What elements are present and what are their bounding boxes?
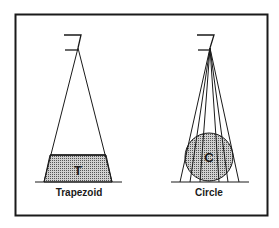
circle-letter: C [204, 150, 214, 165]
trapezoid-label: Trapezoid [56, 187, 103, 198]
circle-panel: C Circle [171, 35, 249, 198]
eye-icon [197, 35, 214, 50]
trapezoid-letter: T [74, 163, 82, 178]
eye-icon [64, 35, 81, 50]
diagram-canvas: T Trapezoid C Circle [0, 0, 279, 228]
circle-label: Circle [195, 187, 223, 198]
trapezoid-panel: T Trapezoid [35, 35, 122, 198]
frame-border [16, 15, 268, 216]
